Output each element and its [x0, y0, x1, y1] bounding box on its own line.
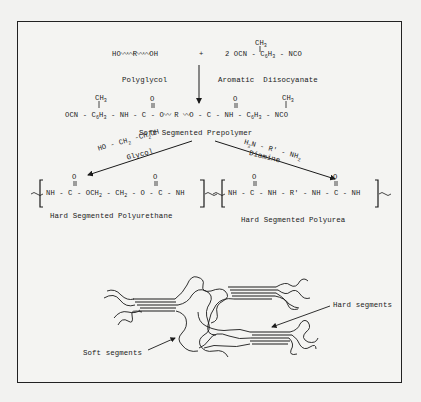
arrow-glycol: [88, 141, 192, 175]
diagram-lineart: [0, 0, 421, 402]
soft-segment-chains: [104, 277, 318, 357]
arrow-hard-segments: [272, 306, 330, 327]
arrow-diamine: [215, 141, 335, 179]
bracket-right: [375, 180, 378, 207]
arrow-soft-segments: [148, 338, 175, 350]
bracket-left: [222, 180, 225, 207]
bracket-left: [40, 180, 43, 207]
bracket-right: [200, 180, 204, 207]
